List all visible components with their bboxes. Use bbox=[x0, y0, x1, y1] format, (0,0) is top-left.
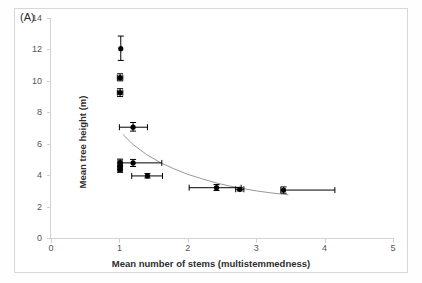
y-tick-mark bbox=[47, 175, 51, 176]
chart-frame bbox=[14, 8, 408, 273]
y-tick-label: 8 bbox=[0, 107, 42, 117]
y-tick-mark bbox=[47, 81, 51, 82]
y-tick-label: 6 bbox=[0, 139, 42, 149]
y-tick-mark bbox=[47, 112, 51, 113]
x-tick-label: 2 bbox=[176, 243, 200, 253]
x-axis-title: Mean number of stems (multistemmedness) bbox=[14, 258, 408, 269]
y-tick-mark bbox=[47, 49, 51, 50]
figure-container: (A) Mean tree height (m) Mean number of … bbox=[0, 0, 422, 283]
y-tick-label: 2 bbox=[0, 202, 42, 212]
y-tick-label: 14 bbox=[0, 13, 42, 23]
x-tick-label: 3 bbox=[244, 243, 268, 253]
y-tick-label: 4 bbox=[0, 170, 42, 180]
y-tick-mark bbox=[47, 144, 51, 145]
x-tick-label: 4 bbox=[313, 243, 337, 253]
y-tick-label: 12 bbox=[0, 44, 42, 54]
y-tick-mark bbox=[47, 18, 51, 19]
x-tick-label: 5 bbox=[381, 243, 405, 253]
x-tick-label: 1 bbox=[107, 243, 131, 253]
y-axis-title: Mean tree height (m) bbox=[77, 52, 88, 232]
y-tick-mark bbox=[47, 207, 51, 208]
y-tick-label: 10 bbox=[0, 76, 42, 86]
x-tick-label: 0 bbox=[39, 243, 63, 253]
x-axis-line bbox=[51, 238, 394, 239]
y-tick-label: 0 bbox=[0, 233, 42, 243]
